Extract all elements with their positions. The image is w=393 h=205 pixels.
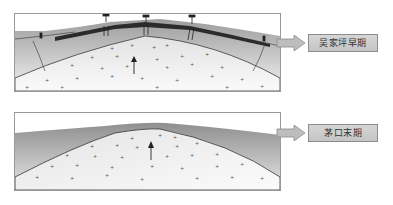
svg-text:+: + — [155, 84, 159, 90]
svg-text:+: + — [230, 174, 234, 180]
svg-text:+: + — [90, 54, 94, 60]
svg-text:+: + — [152, 44, 156, 50]
svg-text:+: + — [140, 75, 144, 81]
arrow-right-icon — [276, 35, 306, 51]
svg-text:+: + — [155, 56, 159, 62]
svg-text:+: + — [240, 76, 244, 82]
svg-text:+: + — [175, 77, 179, 83]
svg-text:+: + — [110, 45, 114, 51]
svg-text:+: + — [130, 135, 134, 141]
svg-text:+: + — [165, 153, 169, 159]
svg-text:+: + — [110, 164, 114, 170]
svg-text:+: + — [260, 175, 264, 181]
svg-text:+: + — [150, 163, 154, 169]
svg-text:+: + — [225, 84, 229, 90]
svg-text:+: + — [195, 140, 199, 146]
svg-text:+: + — [90, 143, 94, 149]
svg-text:+: + — [70, 62, 74, 68]
svg-text:+: + — [135, 144, 139, 150]
svg-text:+: + — [115, 142, 119, 148]
svg-text:+: + — [120, 154, 124, 160]
svg-text:+: + — [45, 77, 49, 83]
uplift-diagram-bottom: +++ +++++ ++++++ +++++++ +++++++ — [15, 113, 280, 190]
svg-text:+: + — [110, 73, 114, 79]
svg-text:+: + — [165, 64, 169, 70]
svg-text:+: + — [165, 42, 169, 48]
stage-label-bottom: 茅口末期 — [308, 124, 378, 142]
svg-text:+: + — [100, 65, 104, 71]
cross-section-top: ++++ +++++ ++++++ +++++++ +++++ — [14, 13, 281, 92]
svg-text:+: + — [210, 73, 214, 79]
svg-text:+: + — [105, 172, 109, 178]
svg-text:+: + — [130, 42, 134, 48]
svg-text:+: + — [140, 176, 144, 182]
svg-text:+: + — [205, 51, 209, 57]
svg-text:+: + — [215, 163, 219, 169]
svg-text:+: + — [75, 162, 79, 168]
svg-text:+: + — [50, 163, 54, 169]
svg-text:+: + — [60, 84, 64, 90]
svg-text:+: + — [115, 53, 119, 59]
arrow-right-icon — [276, 125, 306, 141]
svg-text:+: + — [180, 165, 184, 171]
svg-text:+: + — [35, 174, 39, 180]
svg-text:+: + — [93, 153, 97, 159]
svg-text:+: + — [173, 134, 177, 140]
svg-text:+: + — [70, 175, 74, 181]
svg-text:+: + — [65, 152, 69, 158]
svg-text:+: + — [158, 132, 162, 138]
svg-text:+: + — [125, 63, 129, 69]
svg-text:+: + — [180, 53, 184, 59]
svg-text:+: + — [215, 151, 219, 157]
uplift-diagram-top: ++++ +++++ ++++++ +++++++ +++++ — [15, 14, 280, 91]
svg-text:+: + — [240, 161, 244, 167]
svg-text:+: + — [25, 84, 29, 90]
svg-text:+: + — [190, 61, 194, 67]
stage-label-top: 吴家坪早期 — [308, 34, 378, 52]
svg-text:+: + — [195, 175, 199, 181]
svg-text:+: + — [190, 152, 194, 158]
svg-text:+: + — [260, 83, 264, 89]
cross-section-bottom: +++ +++++ ++++++ +++++++ +++++++ — [14, 112, 281, 191]
svg-text:+: + — [220, 64, 224, 70]
svg-text:+: + — [175, 143, 179, 149]
svg-text:+: + — [75, 75, 79, 81]
